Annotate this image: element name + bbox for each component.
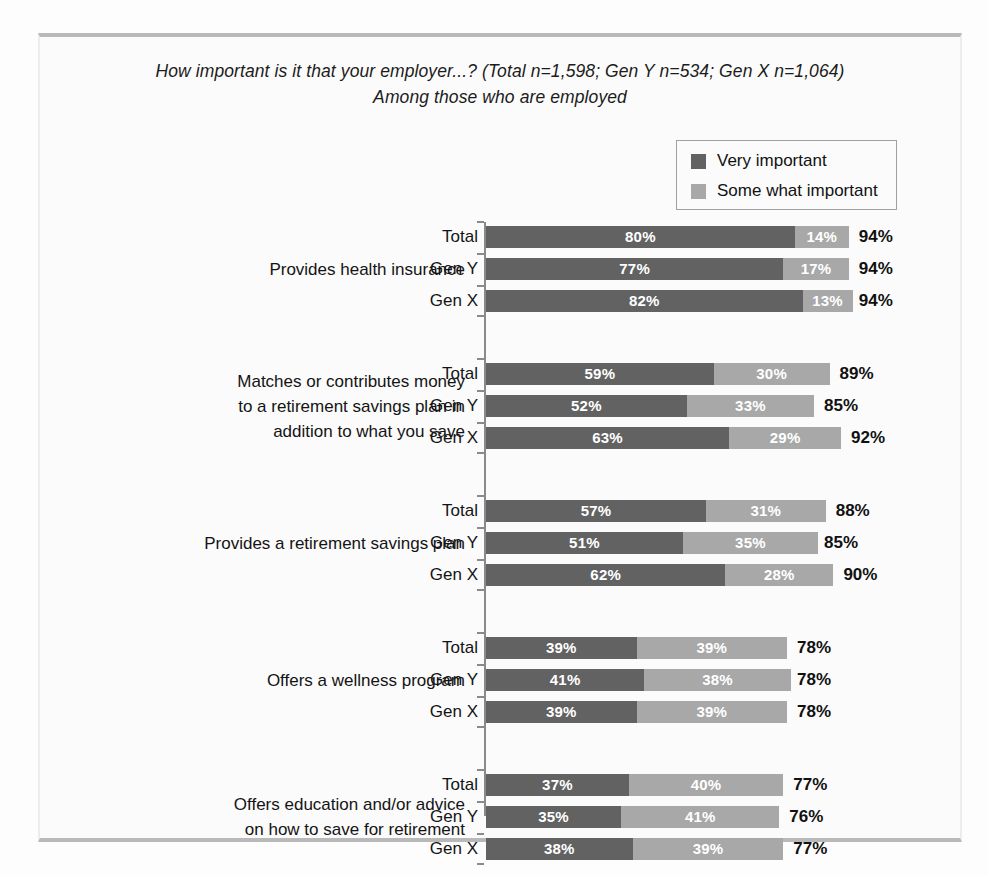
axis-tick <box>477 589 484 591</box>
category-label-line: on how to save for retirement <box>135 817 465 842</box>
stacked-bar: 77%17% <box>486 258 849 280</box>
bar-value-some-what-important: 13% <box>803 290 853 312</box>
bar-value-some-what-important: 41% <box>621 806 779 828</box>
bar-value-very-important: 80% <box>486 226 795 248</box>
category-label-line: Offers a wellness program <box>135 668 465 693</box>
axis-tick <box>477 559 484 561</box>
bar-value-very-important: 37% <box>486 774 629 796</box>
bar-value-some-what-important: 39% <box>637 701 788 723</box>
series-label-total: Total <box>390 500 478 522</box>
bar-value-very-important: 82% <box>486 290 803 312</box>
bar-value-very-important: 39% <box>486 701 637 723</box>
axis-tick <box>477 664 484 666</box>
category-label: Matches or contributes moneyto a retirem… <box>135 369 465 444</box>
bar-segment-some-what-important: 28% <box>725 564 833 586</box>
bar-value-some-what-important: 14% <box>795 226 849 248</box>
bar-value-very-important: 63% <box>486 427 729 449</box>
axis-tick <box>477 801 484 803</box>
bar-segment-some-what-important: 30% <box>714 363 830 385</box>
bar-total-label: 85% <box>824 532 858 554</box>
bar-segment-some-what-important: 29% <box>729 427 841 449</box>
axis-tick <box>477 726 484 728</box>
bar-value-very-important: 59% <box>486 363 714 385</box>
bar-segment-very-important: 51% <box>486 532 683 554</box>
bar-total-label: 78% <box>797 669 831 691</box>
bar-segment-very-important: 39% <box>486 701 637 723</box>
category-label: Provides health insurance <box>135 257 465 282</box>
stacked-bar: 41%38% <box>486 669 791 691</box>
bar-total-label: 94% <box>859 226 893 248</box>
stacked-bar: 39%39% <box>486 701 787 723</box>
bar-segment-very-important: 82% <box>486 290 803 312</box>
bar-segment-some-what-important: 38% <box>644 669 791 691</box>
bar-total-label: 76% <box>789 806 823 828</box>
bar-segment-some-what-important: 39% <box>637 637 788 659</box>
stacked-bar: 37%40% <box>486 774 783 796</box>
axis-tick <box>477 833 484 835</box>
bar-total-label: 78% <box>797 637 831 659</box>
category-label-line: Offers education and/or advice <box>135 792 465 817</box>
stacked-bar: 63%29% <box>486 427 841 449</box>
axis-tick <box>477 390 484 392</box>
stacked-bar: 35%41% <box>486 806 779 828</box>
bar-value-very-important: 57% <box>486 500 706 522</box>
bar-total-label: 85% <box>824 395 858 417</box>
series-label-gen-x: Gen X <box>390 564 478 586</box>
bar-segment-some-what-important: 17% <box>783 258 849 280</box>
axis-tick <box>477 527 484 529</box>
bar-value-some-what-important: 39% <box>637 637 788 659</box>
axis-tick <box>477 769 484 771</box>
bar-segment-some-what-important: 41% <box>621 806 779 828</box>
category-label: Offers a wellness program <box>135 668 465 693</box>
bar-total-label: 90% <box>843 564 877 586</box>
bar-value-very-important: 52% <box>486 395 687 417</box>
bar-value-very-important: 39% <box>486 637 637 659</box>
stacked-bar: 51%35% <box>486 532 818 554</box>
bar-value-some-what-important: 28% <box>725 564 833 586</box>
bar-total-label: 88% <box>836 500 870 522</box>
category-label-line: addition to what you save <box>135 419 465 444</box>
axis-tick <box>477 358 484 360</box>
axis-tick <box>477 221 484 223</box>
bar-value-very-important: 51% <box>486 532 683 554</box>
bar-segment-some-what-important: 39% <box>637 701 788 723</box>
bar-segment-very-important: 59% <box>486 363 714 385</box>
bar-segment-some-what-important: 39% <box>633 838 784 860</box>
bar-segment-very-important: 57% <box>486 500 706 522</box>
axis-tick <box>477 315 484 317</box>
bar-total-label: 77% <box>793 838 827 860</box>
bar-value-some-what-important: 30% <box>714 363 830 385</box>
bar-segment-some-what-important: 40% <box>629 774 783 796</box>
bar-value-some-what-important: 31% <box>706 500 826 522</box>
category-label: Provides a retirement savings plan <box>135 531 465 556</box>
category-label: Offers education and/or adviceon how to … <box>135 792 465 842</box>
stacked-bar: 39%39% <box>486 637 787 659</box>
stacked-bar: 82%13% <box>486 290 853 312</box>
bar-segment-very-important: 52% <box>486 395 687 417</box>
bar-value-very-important: 35% <box>486 806 621 828</box>
stacked-bar: 59%30% <box>486 363 830 385</box>
series-label-total: Total <box>390 637 478 659</box>
axis-tick <box>477 452 484 454</box>
bar-total-label: 94% <box>859 290 893 312</box>
bar-segment-very-important: 63% <box>486 427 729 449</box>
bar-segment-very-important: 80% <box>486 226 795 248</box>
bar-segment-some-what-important: 33% <box>687 395 814 417</box>
bar-total-label: 77% <box>793 774 827 796</box>
bar-segment-some-what-important: 13% <box>803 290 853 312</box>
bar-value-some-what-important: 38% <box>644 669 791 691</box>
axis-tick <box>477 495 484 497</box>
stacked-bar: 80%14% <box>486 226 849 248</box>
stacked-bar: 57%31% <box>486 500 826 522</box>
stacked-bar: 62%28% <box>486 564 833 586</box>
axis-tick <box>477 863 484 865</box>
bar-value-very-important: 77% <box>486 258 783 280</box>
bar-total-label: 89% <box>840 363 874 385</box>
bar-segment-very-important: 38% <box>486 838 633 860</box>
chart-page: How important is it that your employer..… <box>0 0 988 876</box>
category-label-line: Provides health insurance <box>135 257 465 282</box>
bar-value-very-important: 62% <box>486 564 725 586</box>
stacked-bar: 52%33% <box>486 395 814 417</box>
bar-segment-some-what-important: 14% <box>795 226 849 248</box>
bar-total-label: 92% <box>851 427 885 449</box>
